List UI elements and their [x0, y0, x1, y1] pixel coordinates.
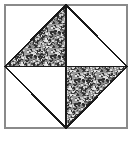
figure-canvas	[0, 0, 137, 143]
geometric-figure	[0, 0, 137, 143]
